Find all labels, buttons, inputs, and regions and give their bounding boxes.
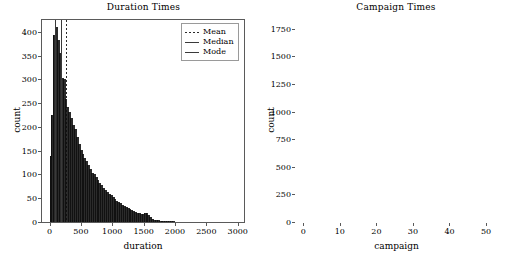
legend-label-median: Median <box>203 37 234 47</box>
legend-item-mean: Mean <box>185 27 234 37</box>
x-tick-mark <box>50 223 51 226</box>
x-tick-label: 10 <box>335 227 345 236</box>
x-tick-mark <box>413 223 414 226</box>
y-tick-mark <box>38 79 41 80</box>
y-tick-mark <box>38 174 41 175</box>
y-tick-mark <box>292 139 295 140</box>
chart-title-campaign: Campaign Times <box>255 2 507 12</box>
y-tick-mark <box>292 112 295 113</box>
y-tick-mark <box>38 151 41 152</box>
y-tick-mark <box>292 167 295 168</box>
x-tick-mark <box>340 223 341 226</box>
x-axis-label-campaign: campaign <box>295 241 498 251</box>
x-tick-label: 0 <box>47 227 52 236</box>
marker-line-mean <box>66 20 67 222</box>
y-axis-label-campaign: count <box>266 18 276 222</box>
y-tick-mark <box>38 127 41 128</box>
x-tick-label: 2000 <box>165 227 185 236</box>
y-tick-mark <box>38 198 41 199</box>
x-tick-mark <box>486 223 487 226</box>
legend-duration: Mean Median Mode <box>181 23 239 61</box>
x-tick-label: 30 <box>408 227 418 236</box>
y-tick-mark <box>292 56 295 57</box>
x-axis-label-duration: duration <box>41 241 245 251</box>
x-tick-label: 3000 <box>228 227 248 236</box>
y-tick-mark <box>38 32 41 33</box>
chart-title-duration: Duration Times <box>0 2 255 12</box>
legend-item-mode: Mode <box>185 47 234 57</box>
x-tick-label: 2500 <box>196 227 216 236</box>
dashed-line-icon <box>185 28 199 36</box>
y-tick-mark <box>292 29 295 30</box>
marker-line-median <box>61 20 62 222</box>
x-tick-label: 50 <box>481 227 491 236</box>
x-tick-mark <box>449 223 450 226</box>
x-tick-label: 500 <box>73 227 88 236</box>
x-tick-mark <box>112 223 113 226</box>
legend-label-mode: Mode <box>203 47 226 57</box>
y-tick-mark <box>38 56 41 57</box>
solid-line-icon <box>185 48 199 56</box>
chart-panel-duration: Duration Times 050100150200250300350400 … <box>0 0 255 259</box>
chart-panel-campaign: Campaign Times 0250500750100012501500175… <box>255 0 507 259</box>
x-tick-mark <box>175 223 176 226</box>
y-tick-mark <box>292 194 295 195</box>
y-tick-mark <box>292 222 295 223</box>
x-tick-label: 0 <box>301 227 306 236</box>
legend-label-mean: Mean <box>203 27 226 37</box>
y-tick-mark <box>292 84 295 85</box>
y-axis-label-duration: count <box>12 18 22 222</box>
x-tick-label: 40 <box>444 227 454 236</box>
x-tick-mark <box>144 223 145 226</box>
x-tick-mark <box>376 223 377 226</box>
y-tick-mark <box>38 103 41 104</box>
x-tick-mark <box>303 223 304 226</box>
x-tick-label: 20 <box>371 227 381 236</box>
x-tick-mark <box>206 223 207 226</box>
solid-line-icon <box>185 38 199 46</box>
x-tick-label: 1500 <box>133 227 153 236</box>
y-tick-mark <box>38 222 41 223</box>
x-tick-label: 1000 <box>102 227 122 236</box>
figure-canvas: Duration Times 050100150200250300350400 … <box>0 0 507 259</box>
x-tick-mark <box>238 223 239 226</box>
x-tick-mark <box>81 223 82 226</box>
legend-item-median: Median <box>185 37 234 47</box>
marker-line-mode <box>55 20 56 222</box>
